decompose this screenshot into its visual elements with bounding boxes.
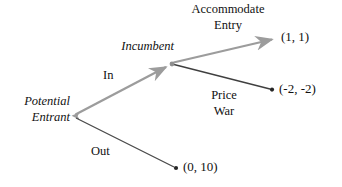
- edge-label-accommodate-line1: Accommodate: [178, 2, 278, 18]
- edge-label-in-text: In: [103, 68, 113, 82]
- edge-label-out: Out: [91, 144, 110, 158]
- edge-label-in: In: [103, 68, 113, 82]
- edge-label-accommodate-line2: Entry: [178, 18, 278, 34]
- edge-out-line: [76, 118, 174, 167]
- payoff-label-out: (0, 10): [183, 160, 218, 175]
- edge-accommodate-line: [174, 40, 273, 63]
- node-label-incumbent-text: Incumbent: [121, 39, 174, 53]
- payoff-label-price-war: (-2, -2): [279, 82, 316, 97]
- node-label-potential-entrant: Potential Entrant: [4, 94, 70, 125]
- payoff-label-accommodate-text: (1, 1): [281, 29, 309, 44]
- edge-in-line: [76, 67, 167, 115]
- node-label-potential-entrant-line1: Potential: [4, 94, 70, 110]
- incumbent-node-dot: [170, 62, 175, 67]
- payoff-label-out-text: (0, 10): [183, 159, 218, 174]
- edge-price-war-line: [174, 65, 270, 90]
- payoff-label-price-war-text: (-2, -2): [279, 81, 316, 96]
- terminal-dot-m2-m2: [270, 88, 274, 92]
- edge-label-price-war-line1: Price: [200, 88, 248, 104]
- node-label-incumbent: Incumbent: [108, 39, 174, 53]
- edge-label-accommodate-entry: Accommodate Entry: [178, 2, 278, 33]
- payoff-label-accommodate: (1, 1): [281, 30, 309, 45]
- terminal-dot-0-10: [174, 166, 178, 170]
- edge-label-price-war: Price War: [200, 88, 248, 119]
- node-label-potential-entrant-line2: Entrant: [4, 110, 70, 126]
- edge-label-out-text: Out: [91, 144, 110, 158]
- edge-label-price-war-line2: War: [200, 104, 248, 120]
